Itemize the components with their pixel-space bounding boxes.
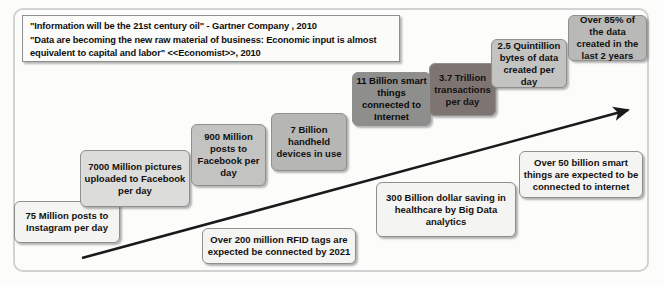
stat-box-facebook-posts[interactable]: 900 Million posts to Facebook per day xyxy=(191,124,266,186)
stat-box-quintillion-bytes[interactable]: 2.5 Quintillion bytes of data created pe… xyxy=(491,39,567,88)
stat-box-smart-things-iot[interactable]: 11 Billion smart things connected to Int… xyxy=(352,72,431,126)
stat-box-handheld-devices[interactable]: 7 Billion handheld devices in use xyxy=(271,113,347,171)
stat-text: Over 200 million RFID tags are expected … xyxy=(206,234,352,258)
stat-box-instagram-posts[interactable]: 75 Million posts to Instagram per day xyxy=(14,201,120,243)
big-data-infographic: "Information will be the 21st century oi… xyxy=(0,0,664,285)
stat-box-smart-things-future[interactable]: Over 50 billion smart things are expecte… xyxy=(519,151,643,198)
quote-line-2: "Data are becoming the new raw material … xyxy=(30,34,393,48)
stat-box-healthcare-saving[interactable]: 300 Billion dollar saving in healthcare … xyxy=(376,182,516,237)
stat-text: 75 Million posts to Instagram per day xyxy=(18,210,116,234)
quote-line-1: "Information will be the 21st century oi… xyxy=(30,20,393,34)
stat-text: Over 50 billion smart things are expecte… xyxy=(523,157,639,193)
stat-text: 11 Billion smart things connected to Int… xyxy=(356,75,427,123)
stat-box-data-last-two-years[interactable]: Over 85% of the data created in the last… xyxy=(568,15,647,61)
stat-text: 2.5 Quintillion bytes of data created pe… xyxy=(495,40,563,88)
stat-text: 7 Billion handheld devices in use xyxy=(275,124,343,160)
stat-box-facebook-pictures[interactable]: 7000 Million pictures uploaded to Facebo… xyxy=(80,150,190,207)
stat-text: 7000 Million pictures uploaded to Facebo… xyxy=(84,161,186,197)
stat-text: 300 Billion dollar saving in healthcare … xyxy=(380,192,512,228)
stat-text: Over 85% of the data created in the last… xyxy=(572,14,643,62)
stat-box-rfid-tags[interactable]: Over 200 million RFID tags are expected … xyxy=(202,228,356,264)
quote-line-3: equivalent to capital and labor" <<Econo… xyxy=(30,47,393,61)
stat-text: 3.7 Trillion transactions per day xyxy=(433,72,492,108)
stat-box-transactions-per-day[interactable]: 3.7 Trillion transactions per day xyxy=(429,63,496,116)
stat-text: 900 Million posts to Facebook per day xyxy=(195,131,262,179)
quote-banner: "Information will be the 21st century oi… xyxy=(22,15,400,62)
